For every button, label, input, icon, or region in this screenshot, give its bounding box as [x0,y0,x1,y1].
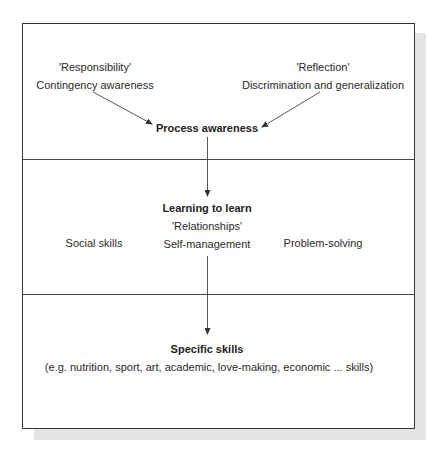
arrow-discrimination-to-process [262,92,320,127]
arrow-contingency-to-process [93,92,152,124]
arrows-layer [0,0,443,459]
